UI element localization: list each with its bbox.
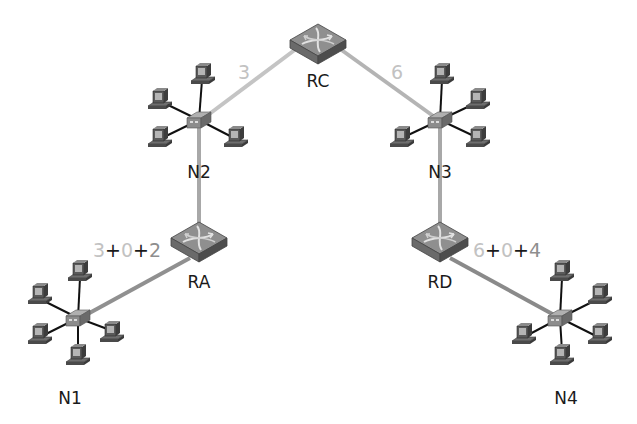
computer-icon [28,283,52,304]
metric-rd-c: 4 [529,239,541,261]
network-label-n3: N3 [428,162,452,182]
metric-ra-sum: 3+0+2 [93,239,161,261]
computer-icon [66,344,90,365]
link-rc-n3 [336,46,436,118]
metric-rd-sum: 6+0+4 [473,239,541,261]
computer-icon [191,63,215,84]
metric-rc-n3: 6 [391,61,403,83]
router-icon-rd [412,222,468,262]
metric-n2-rc: 3 [238,61,250,83]
computer-icon [550,344,574,365]
metric-rd-a: 6 [473,239,485,261]
computer-icon [148,88,172,109]
computer-icon [390,126,414,147]
router-icon-ra [171,222,227,262]
link-rd-n4 [450,258,556,316]
metric-ra-op1: + [105,239,121,261]
computer-icon [224,126,248,147]
network-n4 [512,260,612,365]
computer-icon [466,126,490,147]
metric-ra-b: 0 [121,239,133,261]
router-label-rd: RD [428,272,453,292]
hub-icon [66,310,90,326]
network-label-n1: N1 [58,388,82,408]
computer-icon [466,88,490,109]
computer-icon [588,283,612,304]
network-n1 [28,260,124,365]
router-icon-rc [290,24,346,64]
metric-rd-b: 0 [501,239,513,261]
metric-ra-c: 2 [149,239,161,261]
network-label-n4: N4 [554,388,578,408]
network-diagram: RC RA RD N2 N3 N1 N4 3 6 3+0+2 6+0+4 [0,0,637,424]
metric-ra-a: 3 [93,239,105,261]
link-n2-rc [204,46,300,118]
computer-icon [430,63,454,84]
metric-ra-op2: + [133,239,149,261]
computer-icon [68,260,92,281]
computer-icon [550,260,574,281]
router-label-ra: RA [188,272,211,292]
metric-rd-op2: + [513,239,529,261]
computer-icon [148,126,172,147]
router-label-rc: RC [307,71,330,91]
link-ra-n1 [84,258,190,316]
hub-icon [187,112,211,128]
network-label-n2: N2 [187,162,211,182]
metric-rd-op1: + [485,239,501,261]
computer-icon [100,321,124,342]
